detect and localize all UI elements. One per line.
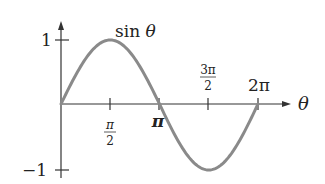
x-label-pi-over-2-num: π	[105, 118, 115, 132]
x-label-pi: π	[151, 111, 165, 131]
y-label-1: 1	[41, 30, 52, 50]
curve-label-fn: sin	[115, 21, 146, 41]
x-label-pi-over-2-den: 2	[106, 134, 114, 148]
x-label-2pi: 2π	[248, 75, 270, 95]
x-axis-arrow-icon	[282, 101, 291, 107]
y-label-neg1: −1	[22, 160, 47, 180]
sine-chart: 1 −1 sin θ π 2 π 3π 2 2π θ	[0, 0, 325, 184]
curve-label-var: θ	[146, 21, 156, 41]
curve-label: sin θ	[115, 21, 156, 41]
x-label-3pi-over-2-den: 2	[204, 79, 212, 93]
y-axis-arrow-icon	[58, 21, 64, 30]
sine-curve	[61, 40, 258, 170]
x-label-3pi-over-2-num: 3π	[200, 63, 216, 77]
x-axis-label: θ	[298, 93, 309, 114]
